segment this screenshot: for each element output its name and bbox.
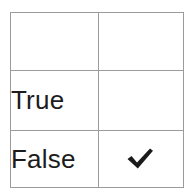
row-label-true: True [11, 71, 99, 131]
truth-value-table: True False [10, 12, 184, 188]
row-check-wrap-false [99, 131, 183, 187]
header-check-cell[interactable] [99, 13, 184, 71]
table-header-row [11, 13, 184, 71]
row-label-false: False [11, 131, 99, 188]
check-icon [126, 147, 156, 171]
truth-table-body: True False [11, 13, 184, 188]
table-row[interactable]: True [11, 71, 184, 131]
header-label-cell [11, 13, 99, 71]
row-check-cell-false[interactable] [99, 131, 184, 188]
row-check-cell-true[interactable] [99, 71, 184, 131]
table-row[interactable]: False [11, 131, 184, 188]
header-check-wrap [99, 13, 183, 70]
check-icon [124, 28, 158, 56]
